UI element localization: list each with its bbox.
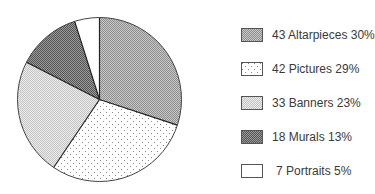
- legend-label: 7 Portraits 5%: [276, 164, 351, 179]
- legend-label: 33 Banners 23%: [272, 96, 361, 111]
- swatch-dark-gray-icon: [241, 130, 263, 144]
- swatch-white-icon: [241, 164, 263, 178]
- legend-label: 18 Murals 13%: [272, 130, 352, 145]
- swatch-light-gray-icon: [241, 96, 263, 110]
- legend-label: 43 Altarpieces 30%: [272, 28, 375, 43]
- pie-slices: [18, 18, 182, 182]
- swatch-dots-icon: [241, 62, 263, 76]
- pie-chart: [0, 0, 200, 194]
- legend-label: 42 Pictures 29%: [272, 62, 359, 77]
- swatch-fine-gray-icon: [241, 28, 263, 42]
